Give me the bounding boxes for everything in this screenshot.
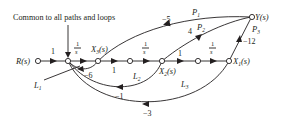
gain-x2-n5: 1	[178, 49, 182, 58]
node-n3	[127, 58, 132, 63]
node-x3	[95, 58, 100, 63]
loop-l2-label: L2	[132, 71, 141, 82]
node-n1	[65, 58, 70, 63]
annotation-arrow-icon	[65, 52, 71, 58]
gain-n3-x2-den: s	[143, 48, 146, 55]
input-label: R(s)	[15, 56, 30, 66]
loop-l2-gain: −1	[115, 92, 124, 101]
gain-n1-x3-num: 1	[76, 40, 79, 47]
arrow-icon	[236, 35, 242, 42]
gain-n1-x3-den: s	[75, 48, 78, 55]
path-p2-label: P2	[196, 22, 205, 33]
x2-label: X2(s)	[158, 66, 176, 77]
gain-r-n1: 1	[51, 47, 55, 56]
arrow-icon	[50, 58, 57, 64]
loop-l3-label: L3	[180, 79, 189, 90]
loop-l3-gain: −3	[143, 109, 152, 118]
path-p1-label: P1	[191, 7, 200, 18]
arrow-icon	[116, 84, 123, 90]
arrow-icon	[143, 58, 150, 64]
loop-l1-gain: −6	[84, 71, 93, 80]
path-p3-label: P3	[251, 24, 260, 35]
gain-n5-x1-num: 1	[211, 40, 214, 47]
x3-label: X3(s)	[90, 44, 108, 55]
node-y	[249, 14, 254, 19]
arrow-icon	[210, 58, 217, 64]
x1-label: X1(s)	[232, 56, 250, 67]
loop-l3-edge	[69, 61, 229, 102]
diagram-canvas: Common to all paths and loops R(s) Y(s) …	[0, 0, 290, 124]
node-n5	[195, 58, 200, 63]
gain-x3-n3: 1	[112, 66, 116, 75]
arrow-icon	[80, 58, 87, 64]
loop-l1-label: L1	[33, 80, 42, 91]
node-r	[35, 58, 40, 63]
output-label: Y(s)	[255, 12, 269, 22]
gain-n3-x2-num: 1	[144, 40, 147, 47]
node-x2	[159, 58, 164, 63]
arrow-icon	[177, 58, 184, 64]
gain-n5-x1-den: s	[210, 48, 213, 55]
path-p2-gain: 4	[188, 27, 192, 36]
common-annotation: Common to all paths and loops	[13, 13, 115, 22]
arrow-icon	[111, 58, 118, 64]
signal-flow-graph: Common to all paths and loops R(s) Y(s) …	[0, 0, 290, 124]
path-p1-gain: −5	[162, 15, 171, 24]
arrow-icon	[195, 34, 202, 41]
path-p3-gain: −12	[243, 37, 256, 46]
node-x1	[226, 58, 231, 63]
l1-pointer	[44, 66, 80, 80]
